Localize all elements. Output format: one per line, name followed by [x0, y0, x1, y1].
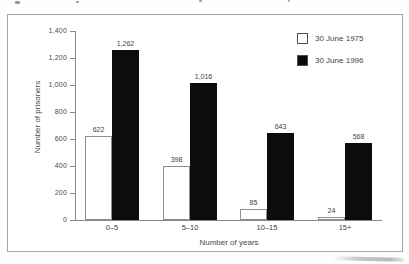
- legend: 30 June 197530 June 1996: [297, 33, 364, 77]
- y-tick-label: 1,000: [27, 81, 67, 89]
- bar: [240, 209, 267, 220]
- bar-value-label: 1,016: [174, 73, 234, 81]
- legend-label: 30 June 1996: [315, 55, 364, 66]
- y-tick-mark: [70, 112, 75, 113]
- x-axis-line: [75, 220, 382, 221]
- y-tick-label: 1,400: [27, 27, 67, 35]
- bar-value-label: 568: [329, 133, 389, 141]
- y-tick-mark: [70, 166, 75, 167]
- y-tick-mark: [70, 85, 75, 86]
- y-tick-label: 1,200: [27, 54, 67, 62]
- y-tick-mark: [70, 220, 75, 221]
- legend-label: 30 June 1975: [315, 33, 364, 44]
- figure-canvas: Number of prisoners Number of years 0200…: [0, 0, 409, 264]
- category-label: 0–5: [82, 223, 142, 232]
- category-label: 15+: [315, 223, 375, 232]
- y-tick-label: 0: [27, 216, 67, 224]
- bar: [267, 133, 294, 220]
- bar: [85, 136, 112, 220]
- y-tick-label: 400: [27, 162, 67, 170]
- bar-value-label: 1,262: [96, 40, 156, 48]
- category-label: 5–10: [160, 223, 220, 232]
- y-tick-label: 800: [27, 108, 67, 116]
- y-tick-mark: [70, 139, 75, 140]
- bar: [112, 50, 139, 220]
- legend-swatch: [297, 33, 308, 44]
- y-tick-label: 200: [27, 189, 67, 197]
- bar-value-label: 643: [251, 123, 311, 131]
- bar: [163, 166, 190, 220]
- y-tick-label: 600: [27, 135, 67, 143]
- bar: [190, 83, 217, 220]
- legend-swatch: [297, 55, 308, 66]
- legend-item: 30 June 1975: [297, 33, 364, 44]
- bar: [345, 143, 372, 220]
- legend-item: 30 June 1996: [297, 55, 364, 66]
- y-tick-mark: [70, 193, 75, 194]
- y-tick-mark: [70, 31, 75, 32]
- y-tick-mark: [70, 58, 75, 59]
- bar: [318, 217, 345, 220]
- category-label: 10–15: [237, 223, 297, 232]
